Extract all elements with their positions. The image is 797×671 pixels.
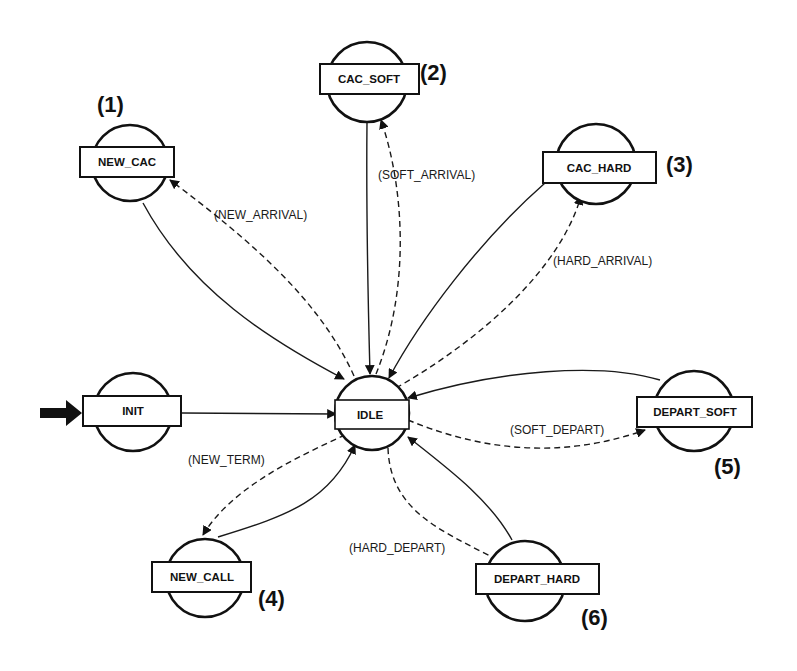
state-number-depart-soft: (5) — [714, 454, 741, 479]
edge-idle-to-cac-soft — [376, 120, 400, 374]
edge-depart-hard-to-idle — [408, 437, 512, 540]
state-label-new-cac: NEW_CAC — [98, 156, 156, 168]
state-diagram: NEW_CAC (1) CAC_SOFT (2) CAC_HARD (3) IN… — [0, 0, 797, 671]
state-number-cac-hard: (3) — [666, 152, 693, 177]
edge-idle-to-cac-hard — [396, 196, 581, 388]
state-new-cac[interactable]: NEW_CAC (1) — [80, 92, 174, 201]
state-label-depart-hard: DEPART_HARD — [494, 573, 580, 585]
edge-label-soft-arrival: (SOFT_ARRIVAL) — [378, 168, 475, 182]
state-cac-soft[interactable]: CAC_SOFT (2) — [320, 42, 447, 122]
edge-label-hard-depart: (HARD_DEPART) — [349, 541, 445, 555]
initial-state-arrow-icon — [40, 400, 82, 426]
state-label-new-call: NEW_CALL — [170, 571, 234, 583]
state-label-init: INIT — [122, 405, 144, 417]
edge-label-new-arrival: (NEW_ARRIVAL) — [214, 208, 307, 222]
edge-idle-to-new-call — [203, 435, 345, 535]
edge-label-soft-depart: (SOFT_DEPART) — [510, 423, 604, 437]
edge-idle-to-depart-hard — [388, 448, 490, 556]
state-number-cac-soft: (2) — [420, 60, 447, 85]
state-init[interactable]: INIT — [83, 373, 181, 451]
edge-label-new-term: (NEW_TERM) — [188, 453, 265, 467]
state-label-depart-soft: DEPART_SOFT — [653, 406, 737, 418]
edge-cac-hard-to-idle — [389, 183, 545, 378]
state-idle[interactable]: IDLE — [335, 376, 409, 450]
state-label-idle: IDLE — [357, 409, 384, 421]
state-cac-hard[interactable]: CAC_HARD (3) — [543, 124, 693, 204]
state-depart-hard[interactable]: DEPART_HARD (6) — [476, 541, 608, 630]
edge-cac-soft-to-idle — [367, 122, 370, 374]
state-depart-soft[interactable]: DEPART_SOFT (5) — [637, 371, 752, 479]
edge-init-to-idle — [182, 413, 336, 414]
state-number-new-cac: (1) — [97, 92, 124, 117]
edge-new-cac-to-idle — [143, 203, 344, 379]
state-label-cac-soft: CAC_SOFT — [338, 73, 400, 85]
state-label-cac-hard: CAC_HARD — [567, 162, 632, 174]
state-number-depart-hard: (6) — [581, 605, 608, 630]
state-new-call[interactable]: NEW_CALL (4) — [152, 539, 285, 617]
edge-depart-soft-to-idle — [408, 370, 660, 398]
state-number-new-call: (4) — [258, 586, 285, 611]
edge-label-hard-arrival: (HARD_ARRIVAL) — [553, 254, 652, 268]
